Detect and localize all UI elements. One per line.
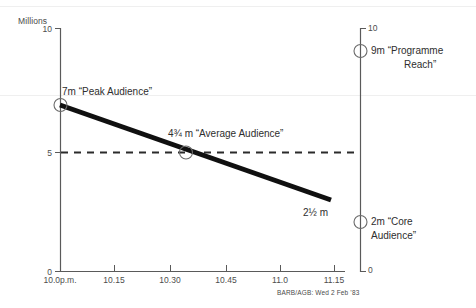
y-tick-label-10: 10 [28,24,52,34]
chart-canvas: Millions 10 5 0 10.0p.m. 10.15 10.30 10.… [0,0,476,308]
x-tick-label-6: 11.15 [324,275,345,285]
secondary-tick-label-10: 10 [368,23,377,33]
x-tick-label-1: 10.0p.m. [43,275,76,285]
x-tick-label-3: 10.30 [159,275,180,285]
annotation-programme-reach-line2: Reach” [404,59,436,71]
x-tick-label-2: 10.15 [103,275,124,285]
annotation-end-value: 2½ m [303,207,328,219]
annotation-core-audience-line2: Audience” [371,230,416,242]
x-tick-label-5: 11.0 [272,275,288,285]
x-tick-label-4: 10.45 [215,275,236,285]
annotation-peak-audience: 7m “Peak Audience” [62,86,152,98]
annotation-programme-reach-line1: 9m “Programme [371,45,443,57]
source-credit: BARB/AGB: Wed 2 Feb ’83 [277,289,359,296]
secondary-tick-label-0: 0 [368,265,373,275]
annotation-average-audience: 4¾ m “Average Audience” [168,128,283,140]
annotation-core-audience-line1: 2m “Core [371,216,413,228]
y-tick-label-5: 5 [28,148,52,158]
